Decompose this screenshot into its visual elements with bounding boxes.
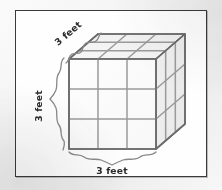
width-brace: [69, 152, 156, 165]
width-dimension: 3 feet: [69, 152, 156, 176]
height-label: 3 feet: [33, 90, 44, 122]
height-brace: [50, 58, 64, 150]
height-dimension: 3 feet: [33, 58, 64, 150]
width-label: 3 feet: [96, 165, 128, 176]
scanned-page: 3 feet 3 feet 3 feet: [0, 0, 222, 190]
cube-front-face: [69, 59, 156, 149]
cube-group: [69, 34, 185, 149]
figure-frame: 3 feet 3 feet 3 feet: [15, 10, 207, 177]
cube-diagram: 3 feet 3 feet 3 feet: [16, 11, 206, 176]
depth-label: 3 feet: [52, 19, 84, 48]
